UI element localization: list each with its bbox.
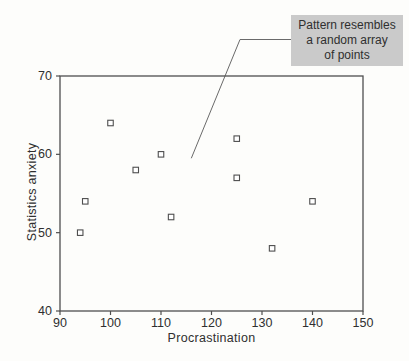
annotation-line-1: Pattern resembles [291, 18, 403, 33]
y-axis-title: Statistics anxiety [25, 117, 41, 267]
data-point-marker [158, 152, 164, 158]
x-tick-label: 110 [151, 316, 171, 330]
scatter-figure: 9010011012013014015040506070 Statistics … [0, 0, 409, 361]
data-point-marker [83, 199, 89, 205]
x-tick-label: 150 [353, 316, 374, 330]
x-tick-label: 90 [53, 316, 67, 330]
annotation-line-2: a random array [291, 33, 403, 48]
data-point-marker [269, 246, 275, 252]
data-point-marker [77, 230, 83, 236]
x-tick-label: 120 [201, 316, 222, 330]
y-tick-label: 70 [38, 69, 52, 83]
annotation-callout: Pattern resembles a random array of poin… [291, 15, 403, 66]
data-point-marker [133, 167, 139, 173]
annotation-line-3: of points [291, 48, 403, 63]
x-tick-label: 140 [302, 316, 323, 330]
data-point-marker [168, 214, 174, 220]
annotation-leader-line [191, 40, 291, 159]
data-point-marker [234, 136, 240, 142]
data-point-marker [234, 175, 240, 181]
x-tick-label: 130 [252, 316, 273, 330]
x-tick-label: 100 [100, 316, 121, 330]
plot-border [60, 76, 363, 311]
x-axis-title: Procrastination [60, 331, 363, 345]
data-point-marker [108, 120, 114, 126]
y-tick-label: 40 [38, 304, 52, 318]
data-point-marker [310, 199, 316, 205]
